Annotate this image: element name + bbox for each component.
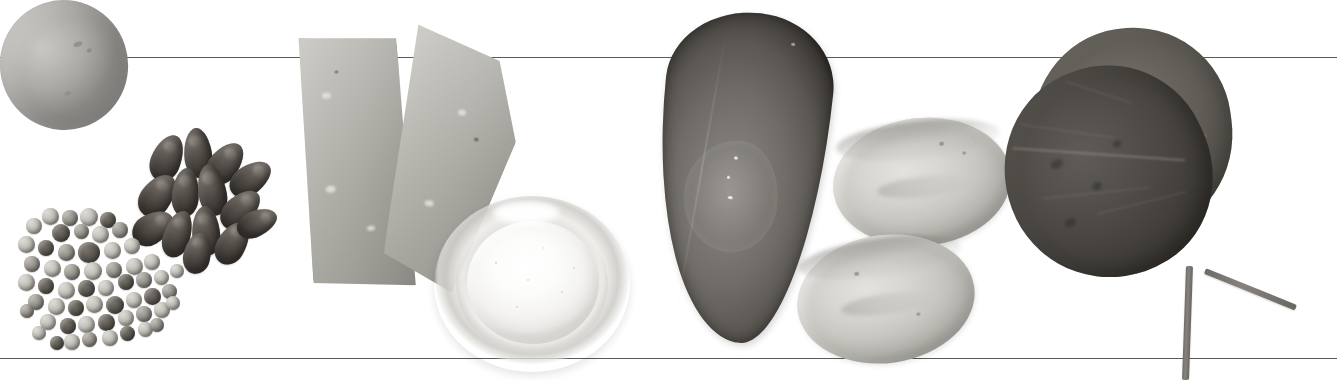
- potato-slice-lower: [789, 223, 983, 375]
- leaf-stem-vertical: [1182, 266, 1193, 380]
- salt-granules: [467, 221, 598, 344]
- leaf-stem-diagonal: [1204, 268, 1297, 310]
- figure-canvas: Grayscale photographic row of food speci…: [0, 0, 1337, 380]
- specimen-group-spinach-leaves: [0, 0, 347, 380]
- potato-slice-upper: [827, 109, 1017, 255]
- salt-bowl: [434, 196, 630, 372]
